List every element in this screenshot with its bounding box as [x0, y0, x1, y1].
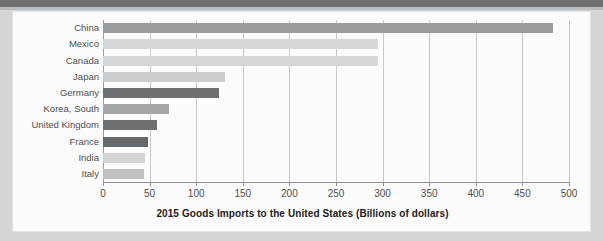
- bar-united-kingdom: [103, 120, 157, 130]
- y-category-label-germany: Germany: [13, 87, 99, 98]
- x-tick-label-400: 400: [456, 188, 496, 199]
- y-category-label-china: China: [13, 22, 99, 33]
- y-axis-category-labels: ChinaMexicoCanadaJapanGermanyKorea, Sout…: [13, 20, 99, 182]
- tick-mark-250: [336, 182, 337, 186]
- bar-mexico: [103, 39, 378, 49]
- tick-mark-100: [196, 182, 197, 186]
- page-top-band: [0, 0, 603, 7]
- tick-mark-300: [383, 182, 384, 186]
- bar-france: [103, 137, 148, 147]
- tick-mark-200: [289, 182, 290, 186]
- y-category-label-korea-south: Korea, South: [13, 103, 99, 114]
- y-category-label-canada: Canada: [13, 55, 99, 66]
- y-category-label-france: France: [13, 136, 99, 147]
- bar-japan: [103, 72, 225, 82]
- tick-mark-400: [476, 182, 477, 186]
- bar-china: [103, 23, 553, 33]
- y-category-label-japan: Japan: [13, 71, 99, 82]
- x-tick-label-100: 100: [176, 188, 216, 199]
- page-top-band-shadow: [0, 7, 603, 10]
- bar-germany: [103, 88, 219, 98]
- chart-figure-card: 050100150200250300350400450500 ChinaMexi…: [12, 11, 591, 232]
- x-tick-label-300: 300: [363, 188, 403, 199]
- chart-bars: [103, 20, 569, 182]
- bar-india: [103, 153, 145, 163]
- tick-mark-50: [150, 182, 151, 186]
- tick-mark-450: [522, 182, 523, 186]
- chart-axis-title: 2015 Goods Imports to the United States …: [13, 208, 592, 219]
- y-category-label-italy: Italy: [13, 168, 99, 179]
- tick-mark-150: [243, 182, 244, 186]
- x-tick-label-50: 50: [130, 188, 170, 199]
- chart-plot-wrapper: 050100150200250300350400450500 ChinaMexi…: [13, 12, 592, 233]
- bar-canada: [103, 56, 378, 66]
- x-tick-label-500: 500: [549, 188, 589, 199]
- tick-mark-500: [569, 182, 570, 186]
- tick-mark-0: [103, 182, 104, 186]
- x-tick-label-150: 150: [223, 188, 263, 199]
- bar-korea-south: [103, 104, 169, 114]
- x-tick-label-0: 0: [83, 188, 123, 199]
- y-category-label-mexico: Mexico: [13, 38, 99, 49]
- x-tick-label-350: 350: [409, 188, 449, 199]
- x-tick-label-450: 450: [502, 188, 542, 199]
- y-category-label-india: India: [13, 152, 99, 163]
- x-tick-label-200: 200: [269, 188, 309, 199]
- tick-mark-350: [429, 182, 430, 186]
- screenshot-page: 050100150200250300350400450500 ChinaMexi…: [0, 0, 603, 241]
- gridline-500: [569, 20, 570, 182]
- bar-italy: [103, 169, 144, 179]
- x-tick-label-250: 250: [316, 188, 356, 199]
- y-category-label-united-kingdom: United Kingdom: [13, 119, 99, 130]
